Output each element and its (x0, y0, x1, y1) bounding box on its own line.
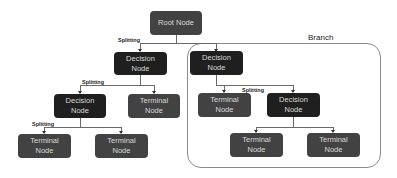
node-label-line2: Node (145, 106, 163, 116)
edge-root-split (140, 43, 217, 44)
terminal-node: Terminal Node (95, 134, 148, 158)
node-label-line2: Node (71, 106, 89, 116)
node-label-line1: Decision (279, 95, 308, 105)
node-label-line2: Node (113, 146, 131, 156)
edge-decision-4-split (256, 127, 334, 128)
decision-node: Decision Node (267, 93, 320, 117)
node-label-line1: Terminal (107, 136, 135, 146)
terminal-node: Terminal Node (18, 134, 71, 158)
root-node-label: Root Node (158, 18, 194, 28)
node-label-line2: Node (325, 145, 343, 155)
node-label-line1: Decision (66, 96, 95, 106)
node-label-line1: Terminal (30, 136, 58, 146)
splitting-label: Splitting (32, 121, 54, 127)
node-label-line2: Node (208, 63, 226, 73)
terminal-node: Terminal Node (307, 133, 360, 157)
node-label-line1: Terminal (242, 135, 270, 145)
terminal-node: Terminal Node (198, 93, 251, 117)
branch-label: Branch (308, 33, 333, 42)
node-label-line2: Node (285, 105, 303, 115)
terminal-node: Terminal Node (230, 133, 283, 157)
node-label-line1: Decision (126, 54, 155, 64)
root-node: Root Node (150, 11, 202, 35)
edge-decision-2-stem (216, 75, 217, 85)
node-label-line2: Node (216, 105, 234, 115)
splitting-label: Splitting (82, 79, 104, 85)
decision-node: Decision Node (114, 52, 167, 75)
decision-node: Decision Node (54, 94, 106, 118)
node-label-line1: Terminal (319, 135, 347, 145)
splitting-label: Splitting (118, 37, 140, 43)
edge-decision-1-stem (140, 75, 141, 85)
node-label-line1: Terminal (210, 95, 238, 105)
terminal-node: Terminal Node (128, 94, 180, 118)
decision-node: Decision Node (190, 51, 243, 75)
node-label-line2: Node (248, 145, 266, 155)
edge-root-stem (176, 35, 177, 43)
node-label-line2: Node (36, 146, 54, 156)
edge-decision-3-stem (80, 118, 81, 127)
node-label-line2: Node (132, 64, 150, 74)
node-label-line1: Decision (202, 53, 231, 63)
node-label-line1: Terminal (140, 96, 168, 106)
edge-decision-2-split (224, 85, 294, 86)
edge-decision-3-split (44, 127, 122, 128)
edge-decision-1-split (80, 85, 155, 86)
edge-decision-4-stem (293, 117, 294, 127)
